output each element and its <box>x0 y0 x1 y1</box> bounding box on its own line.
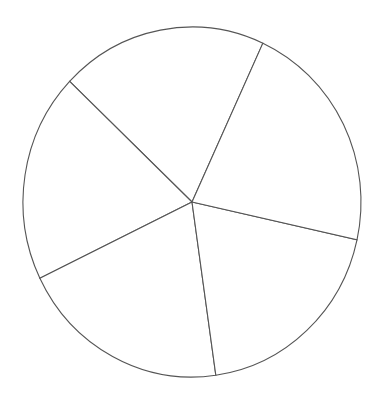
pie-slices <box>23 27 361 377</box>
pie-chart <box>0 0 382 396</box>
